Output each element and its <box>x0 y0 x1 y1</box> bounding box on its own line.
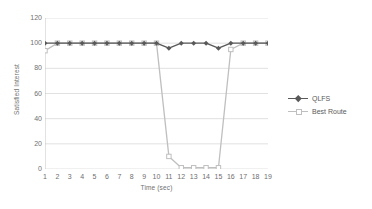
y-tick-label: 60 <box>20 90 42 98</box>
series-line-best-route <box>45 43 268 168</box>
legend-marker-icon <box>295 95 301 101</box>
x-axis-tick-labels: 12345678910111213141516171819 <box>45 172 268 184</box>
data-point-marker <box>179 41 184 46</box>
legend-item-qlfs[interactable]: QLFS <box>288 93 368 104</box>
data-point-marker <box>204 41 209 46</box>
y-tick-label: 40 <box>20 115 42 123</box>
legend-label: QLFS <box>312 94 330 103</box>
data-point-marker <box>228 41 233 46</box>
line-chart: 020406080100120 123456789101112131415161… <box>0 0 372 209</box>
y-axis-title: Satisfied Interest <box>13 30 20 150</box>
data-point-marker <box>216 166 220 169</box>
data-point-marker <box>166 46 171 51</box>
y-tick-label: 100 <box>20 39 42 47</box>
data-point-marker <box>179 166 183 169</box>
plot-area <box>45 18 268 169</box>
y-tick-label: 80 <box>20 64 42 72</box>
data-point-marker <box>216 46 221 51</box>
series-layer <box>45 41 268 169</box>
data-point-marker <box>191 41 196 46</box>
data-point-marker <box>204 166 208 169</box>
legend-item-best-route[interactable]: Best Route <box>288 106 368 117</box>
data-point-marker <box>167 154 171 158</box>
x-tick-label: 19 <box>260 172 276 181</box>
chart-legend: QLFSBest Route <box>288 93 368 119</box>
y-tick-label: 20 <box>20 140 42 148</box>
x-axis-title: Time (sec) <box>45 184 268 191</box>
legend-swatch-icon <box>288 94 308 103</box>
legend-marker-icon <box>296 109 302 115</box>
legend-label: Best Route <box>312 107 347 116</box>
y-axis-tick-labels: 020406080100120 <box>17 18 42 169</box>
data-point-marker <box>45 41 48 46</box>
data-point-marker <box>45 49 47 53</box>
data-point-marker <box>191 166 195 169</box>
plot-svg <box>45 18 268 169</box>
legend-swatch-icon <box>288 107 308 116</box>
y-tick-label: 120 <box>20 14 42 22</box>
data-point-marker <box>229 47 233 51</box>
